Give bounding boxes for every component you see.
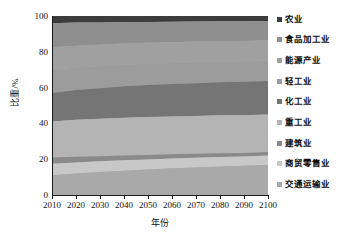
legend-item-label: 轻工业 [285,77,312,86]
legend-swatch-icon [277,99,282,104]
y-axis-tick-label: 40 [39,118,48,128]
stacked-area-chart: 比重/% 020406080100 2010202020302040205020… [0,0,355,242]
legend-swatch-icon [277,182,282,187]
y-axis-line [52,16,53,196]
x-axis-tick-label: 2030 [91,200,109,210]
area-series-group [52,16,268,195]
x-axis-tickmark [100,195,101,199]
x-axis-tickmark [220,195,221,199]
legend-item-label: 食品加工业 [285,35,330,44]
legend-swatch-icon [277,141,282,146]
x-axis-title: 年份 [52,216,268,229]
legend-item[interactable]: 商贸零售业 [277,157,330,171]
legend-item[interactable]: 建筑业 [277,136,312,150]
legend-swatch-icon [277,17,282,22]
y-axis-tick-label: 60 [39,83,48,93]
legend-item[interactable]: 交通运输业 [277,177,330,191]
legend-item[interactable]: 轻工业 [277,74,312,88]
y-axis-tick-labels: 020406080100 [16,10,48,196]
plot-area [52,16,268,195]
legend-item-label: 农业 [285,15,303,24]
chart-legend: 农业食品加工业能源产业轻工业化工业重工业建筑业商贸零售业交通运输业 [277,12,355,198]
legend-swatch-icon [277,161,282,166]
x-axis-tick-labels: 2010202020302040205020602070208020902100 [0,200,355,214]
legend-item[interactable]: 化工业 [277,95,312,109]
x-axis-tick-label: 2060 [163,200,181,210]
legend-item[interactable]: 农业 [277,12,303,26]
x-axis-tickmark [268,195,269,199]
legend-swatch-icon [277,120,282,125]
legend-item-label: 化工业 [285,97,312,106]
legend-item-label: 建筑业 [285,139,312,148]
x-axis-line [52,195,269,196]
x-axis-tickmark [124,195,125,199]
legend-item[interactable]: 重工业 [277,115,312,129]
x-axis-tick-label: 2020 [67,200,85,210]
x-axis-tickmark [244,195,245,199]
legend-item[interactable]: 能源产业 [277,53,321,67]
area-band [52,114,268,157]
x-axis-tick-label: 2090 [235,200,253,210]
x-axis-tick-label: 2040 [115,200,133,210]
x-axis-tick-label: 2100 [259,200,277,210]
x-axis-tickmark [148,195,149,199]
legend-item-label: 商贸零售业 [285,159,330,168]
legend-item-label: 能源产业 [285,56,321,65]
x-axis-tickmark [196,195,197,199]
x-axis-tickmark [172,195,173,199]
x-axis-tick-label: 2050 [139,200,157,210]
x-axis-tick-label: 2070 [187,200,205,210]
legend-item-label: 重工业 [285,118,312,127]
y-axis-tick-label: 100 [35,11,49,21]
y-axis-tick-label: 0 [44,190,49,200]
legend-swatch-icon [277,58,282,63]
legend-item[interactable]: 食品加工业 [277,33,330,47]
y-axis-tick-label: 80 [39,47,48,57]
y-axis-tick-label: 20 [39,154,48,164]
x-axis-tick-label: 2010 [43,200,61,210]
x-axis-tickmark [76,195,77,199]
legend-swatch-icon [277,79,282,84]
x-axis-tickmark [52,195,53,199]
legend-swatch-icon [277,37,282,42]
x-axis-tick-label: 2080 [211,200,229,210]
legend-item-label: 交通运输业 [285,180,330,189]
